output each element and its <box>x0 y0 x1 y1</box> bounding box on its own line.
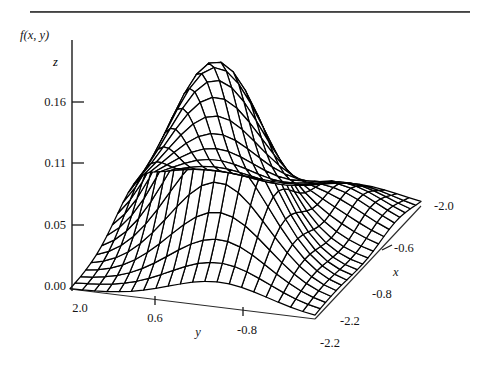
z-tick-label-0: 0.16 <box>44 95 66 109</box>
x-tick-label-3: -2.2 <box>340 314 360 328</box>
x-tick-label-2: -0.8 <box>372 287 392 301</box>
x-tick-label-0: -2.0 <box>434 199 454 213</box>
x-tick-label-1: -0.6 <box>394 241 414 255</box>
y-axis-name: y <box>193 325 201 339</box>
z-tick-label-1: 0.11 <box>45 156 66 170</box>
z-axis-title: f(x, y) <box>20 28 49 42</box>
z-axis <box>72 40 84 291</box>
figure-container: f(x, y) z 0.16 0.11 0.05 0.00 2.0 0.6 -0… <box>0 0 486 380</box>
wireframe-surface-mesh <box>70 62 421 315</box>
z-tick-label-2: 0.05 <box>44 218 66 232</box>
z-tick-label-3: 0.00 <box>44 279 66 293</box>
y-tick-label-0: 2.0 <box>72 301 88 315</box>
surface-plot-svg: f(x, y) z 0.16 0.11 0.05 0.00 2.0 0.6 -0… <box>0 0 486 380</box>
x-axis-name: x <box>392 265 399 279</box>
y-axis-ticks <box>155 296 243 316</box>
y-tick-label-2: -0.8 <box>237 323 257 337</box>
y-tick-label-1: 0.6 <box>147 311 163 325</box>
z-axis-name: z <box>52 55 58 69</box>
y-tick-label-3: -2.2 <box>320 336 340 350</box>
